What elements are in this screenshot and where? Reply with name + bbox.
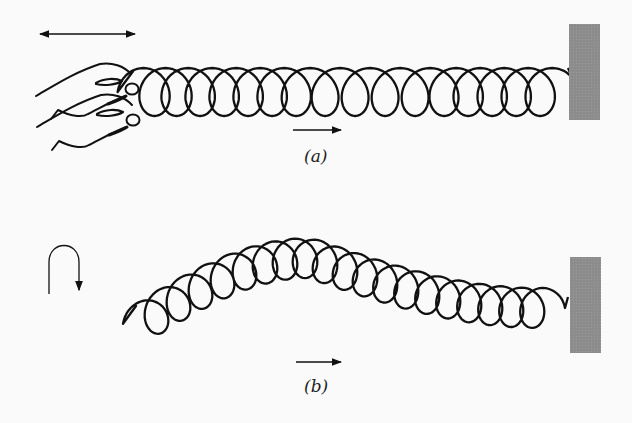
panel-b — [37, 94, 601, 362]
spring-coil — [123, 239, 568, 334]
hand-icon — [36, 63, 139, 119]
wall — [569, 24, 600, 120]
up-down-arrow-icon — [49, 246, 79, 295]
panel-b-label: (b) — [304, 376, 328, 396]
wall — [570, 257, 601, 353]
spring-coil — [118, 68, 573, 116]
panel-a-label: (a) — [304, 146, 327, 166]
hand-icon — [37, 94, 140, 150]
spring-wave-figure — [0, 0, 632, 423]
